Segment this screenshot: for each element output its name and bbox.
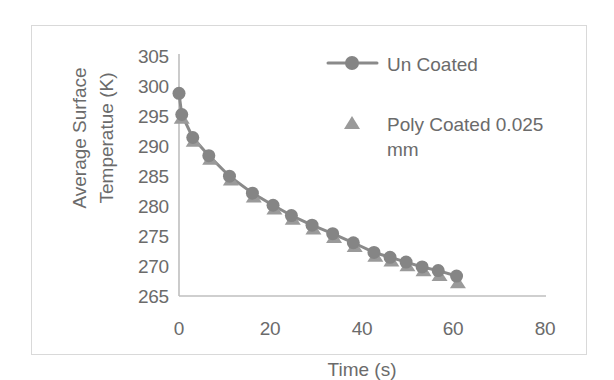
series-markers-un-coated — [173, 87, 464, 283]
data-point — [202, 149, 215, 162]
legend-triangle-icon — [344, 116, 360, 129]
series-line-un-coated — [179, 93, 457, 276]
data-point — [400, 256, 413, 269]
data-point — [326, 227, 339, 240]
data-point — [450, 270, 463, 283]
data-point — [432, 264, 445, 277]
data-point — [223, 170, 236, 183]
legend-circle-icon — [345, 56, 359, 70]
legend-markers — [328, 56, 377, 129]
data-point — [384, 251, 397, 264]
data-point — [267, 199, 280, 212]
series-layer — [173, 87, 466, 288]
data-point — [246, 187, 259, 200]
data-point — [306, 219, 319, 232]
plot-area — [32, 26, 588, 356]
data-point — [173, 87, 186, 100]
data-point — [347, 236, 360, 249]
x-axis-title: Time (s) — [262, 359, 462, 380]
data-point — [367, 246, 380, 259]
data-point — [285, 209, 298, 222]
chart-frame: 305 300 295 290 285 280 275 270 265 0 20… — [31, 25, 587, 355]
data-point — [186, 131, 199, 144]
data-point — [175, 108, 188, 121]
data-point — [416, 260, 429, 273]
chart-figure: 305 300 295 290 285 280 275 270 265 0 20… — [0, 0, 614, 380]
